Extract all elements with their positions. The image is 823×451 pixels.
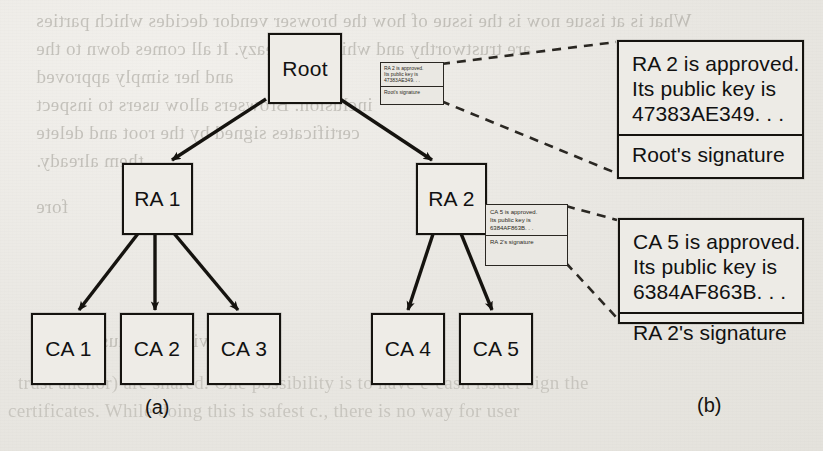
tree-node-label: CA 4 xyxy=(385,337,432,361)
certificate-detail-ra2-signed-ca5[interactable]: CA 5 is approved. Its public key is 6384… xyxy=(618,218,804,324)
certificate-detail-root-signed-ra2[interactable]: RA 2 is approved. Its public key is 4738… xyxy=(617,40,804,179)
certificate-line-3: 6384AF863B. . . xyxy=(490,224,567,232)
subfigure-caption-b: (b) xyxy=(697,394,721,417)
tree-node-label: RA 2 xyxy=(428,187,475,211)
tree-node-ca5[interactable]: CA 5 xyxy=(459,313,533,385)
tree-node-ra2[interactable]: RA 2 xyxy=(416,163,487,235)
tree-node-ca1[interactable]: CA 1 xyxy=(31,313,106,385)
tree-node-root[interactable]: Root xyxy=(268,33,342,104)
certificate-line-2: Its public key is xyxy=(490,216,567,224)
certificate-line-1: CA 5 is approved. xyxy=(633,229,802,254)
tree-node-label: CA 3 xyxy=(221,337,268,361)
tree-node-label: CA 5 xyxy=(473,337,520,361)
certificate-line-3: 47383AE349. . . xyxy=(384,77,443,83)
certificate-line-1: RA 2 is approved. xyxy=(632,51,802,76)
certificate-detail-body: CA 5 is approved. Its public key is 6384… xyxy=(620,220,802,312)
certificate-detail-signature: RA 2's signature xyxy=(620,312,802,352)
certificate-line-1: CA 5 is approved. xyxy=(490,208,567,216)
tree-node-label: Root xyxy=(282,57,328,81)
certificate-detail-signature: Root's signature xyxy=(619,134,802,174)
certificate-thumbnail-signature: RA 2's signature xyxy=(486,235,567,248)
certificate-line-2: Its public key is xyxy=(632,76,802,101)
certificate-thumbnail-body: CA 5 is approved. Its public key is 6384… xyxy=(486,205,567,235)
certificate-detail-body: RA 2 is approved. Its public key is 4738… xyxy=(619,42,802,134)
tree-node-label: CA 1 xyxy=(45,337,92,361)
tree-node-label: CA 2 xyxy=(134,337,181,361)
tree-node-ca4[interactable]: CA 4 xyxy=(371,313,445,385)
certificate-line-3: 47383AE349. . . xyxy=(632,101,802,126)
tree-node-ca3[interactable]: CA 3 xyxy=(207,313,281,385)
certificate-line-3: 6384AF863B. . . xyxy=(633,279,802,304)
tree-node-ra1[interactable]: RA 1 xyxy=(122,163,193,235)
subfigure-caption-a: (a) xyxy=(145,396,169,419)
certificate-thumbnail-ra2-signed-ca5[interactable]: CA 5 is approved. Its public key is 6384… xyxy=(485,204,568,266)
certificate-thumbnail-body: RA 2 is approved. Its public key is 4738… xyxy=(381,63,443,86)
certificate-thumbnail-signature: Root's signature xyxy=(381,86,443,97)
tree-node-label: RA 1 xyxy=(134,187,181,211)
tree-node-ca2[interactable]: CA 2 xyxy=(120,313,194,385)
certificate-line-2: Its public key is xyxy=(633,254,802,279)
certificate-thumbnail-root-signed-ra2[interactable]: RA 2 is approved. Its public key is 4738… xyxy=(380,62,444,105)
